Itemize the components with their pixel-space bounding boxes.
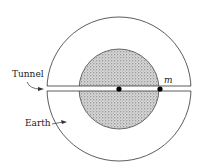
center-dot <box>116 86 121 91</box>
mass-label: m <box>164 75 173 85</box>
earth-arrow-line <box>52 122 63 124</box>
diagram-root: Tunnel Earth m <box>0 0 203 168</box>
tunnel-arrowhead <box>38 87 44 91</box>
mass-dot <box>157 86 162 91</box>
tunnel-label: Tunnel <box>12 69 44 79</box>
earth-tunnel-diagram <box>0 0 203 168</box>
earth-arrowhead <box>61 120 67 124</box>
earth-label: Earth <box>25 118 51 128</box>
